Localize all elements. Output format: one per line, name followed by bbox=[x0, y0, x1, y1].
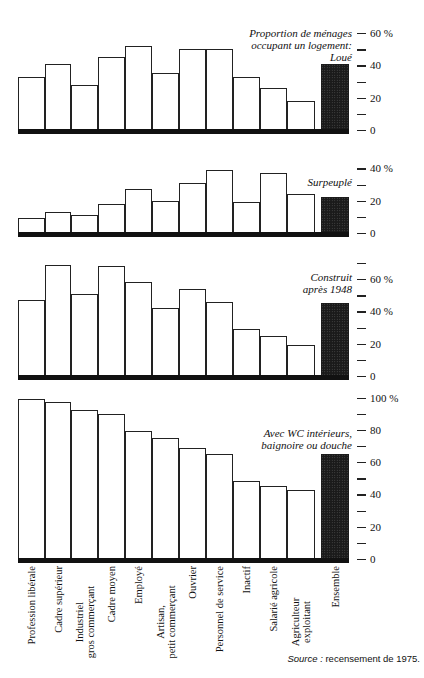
axis-tick bbox=[357, 360, 366, 361]
bar bbox=[45, 212, 71, 233]
axis-tick bbox=[357, 279, 366, 280]
axis-tick bbox=[357, 414, 366, 415]
axis-tick bbox=[357, 328, 366, 329]
axis-tick-label: 60 bbox=[370, 456, 381, 468]
axis-tick bbox=[357, 82, 366, 83]
panel-title-line: Proportion de ménages bbox=[249, 27, 352, 39]
axis-tick bbox=[357, 201, 366, 202]
bar bbox=[287, 490, 315, 559]
axis-tick bbox=[357, 376, 366, 377]
x-axis-label: Cadre supérieur bbox=[45, 566, 71, 678]
x-axis-label: Ouvrier bbox=[179, 566, 206, 678]
axis-tick-label: 20 bbox=[370, 195, 381, 207]
axis-tick bbox=[357, 49, 366, 50]
x-axis-label: Artisan,petit commerçant bbox=[152, 566, 179, 678]
bar bbox=[206, 49, 233, 130]
bar bbox=[125, 189, 152, 233]
bar bbox=[260, 336, 287, 376]
axis-tick-label: 0 bbox=[370, 227, 376, 239]
panel-title: Avec WC intérieurs,baignoire ou douche bbox=[261, 427, 352, 451]
x-axis-label: Personnel de service bbox=[206, 566, 233, 678]
axis-tick bbox=[357, 478, 366, 479]
bar bbox=[152, 438, 179, 559]
bar bbox=[98, 266, 125, 376]
bar bbox=[71, 85, 98, 130]
axis-tick-label: 0 bbox=[370, 370, 376, 382]
x-axis-label: Inactif bbox=[233, 566, 260, 678]
x-axis-label: Employé bbox=[125, 566, 152, 678]
axis-tick-label: 60 % bbox=[370, 273, 393, 285]
bar bbox=[206, 302, 233, 376]
baseline bbox=[18, 558, 349, 563]
bar bbox=[233, 77, 260, 130]
baseline bbox=[18, 375, 349, 380]
bar bbox=[125, 282, 152, 376]
axis-tick bbox=[357, 233, 366, 234]
panel-title-line: Construit bbox=[303, 271, 352, 283]
bar bbox=[260, 88, 287, 130]
source-label: Source : bbox=[287, 653, 322, 664]
bar bbox=[18, 218, 45, 233]
bar bbox=[179, 49, 206, 130]
axis-tick-label: 0 bbox=[370, 553, 376, 565]
axis-tick-label: 40 % bbox=[370, 305, 393, 317]
source-note: Source : recensement de 1975. bbox=[287, 653, 420, 664]
axis-tick bbox=[357, 311, 366, 312]
bar-ensemble bbox=[321, 454, 349, 559]
axis-tick bbox=[357, 446, 366, 447]
bar bbox=[179, 448, 206, 559]
bar bbox=[98, 57, 125, 130]
bar bbox=[179, 289, 206, 376]
axis-tick-label: 40 bbox=[370, 488, 381, 500]
bar bbox=[98, 204, 125, 233]
bar bbox=[18, 399, 45, 559]
bar bbox=[260, 173, 287, 233]
axis-tick bbox=[357, 344, 366, 345]
axis-tick bbox=[357, 217, 366, 218]
panel-title-line: Surpeuplé bbox=[307, 176, 352, 188]
bar bbox=[152, 73, 179, 130]
bar bbox=[179, 183, 206, 233]
bar bbox=[287, 101, 315, 130]
bar bbox=[152, 201, 179, 233]
bar bbox=[206, 454, 233, 559]
bar bbox=[260, 486, 287, 559]
axis-tick-label: 100 % bbox=[370, 392, 398, 404]
bar bbox=[45, 265, 71, 376]
axis-tick bbox=[357, 263, 366, 264]
bar-ensemble bbox=[321, 64, 349, 130]
bar bbox=[233, 481, 260, 559]
panel-title: Surpeuplé bbox=[307, 176, 352, 188]
x-axis-label: Cadre moyen bbox=[98, 566, 125, 678]
x-axis-label: Profession libérale bbox=[18, 566, 45, 678]
bar bbox=[71, 215, 98, 233]
panel-title: Construitaprès 1948 bbox=[303, 271, 352, 295]
bar bbox=[71, 294, 98, 376]
axis-tick-label: 0 bbox=[370, 124, 376, 136]
bar bbox=[71, 410, 98, 559]
axis-tick bbox=[357, 398, 366, 399]
panel-title-line: baignoire ou douche bbox=[261, 439, 352, 451]
bar-ensemble bbox=[321, 197, 349, 233]
x-axis-label: Salarié agricole bbox=[260, 566, 287, 678]
bar bbox=[45, 64, 71, 130]
bar-ensemble bbox=[321, 303, 349, 376]
bar bbox=[287, 345, 315, 376]
bar bbox=[152, 308, 179, 376]
axis-tick-label: 20 bbox=[370, 92, 381, 104]
axis-tick bbox=[357, 430, 366, 431]
source-text: recensement de 1975. bbox=[325, 653, 420, 664]
bar bbox=[98, 414, 125, 559]
bar bbox=[233, 202, 260, 233]
axis-tick bbox=[357, 511, 366, 512]
panel-title-line: Avec WC intérieurs, bbox=[261, 427, 352, 439]
panel-title-line: occupant un logement: bbox=[249, 39, 352, 51]
axis-tick bbox=[357, 543, 366, 544]
axis-tick-label: 20 bbox=[370, 521, 381, 533]
bar bbox=[125, 46, 152, 130]
panel-title-line: Loué bbox=[249, 51, 352, 63]
axis-tick-label: 40 % bbox=[370, 162, 393, 174]
axis-tick bbox=[357, 185, 366, 186]
bar bbox=[18, 77, 45, 130]
baseline bbox=[18, 129, 349, 134]
